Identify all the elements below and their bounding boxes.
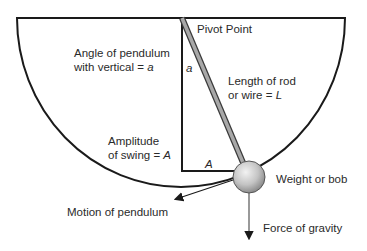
gravity-label: Force of gravity [263, 221, 342, 235]
angle-marker: a [186, 61, 192, 75]
bob [233, 161, 265, 193]
length-label: Length of rod or wire = L [228, 74, 296, 102]
amplitude-label: Amplitude of swing = A [108, 134, 171, 162]
angle-label: Angle of pendulum with vertical = a [74, 46, 170, 74]
pendulum-diagram [0, 0, 367, 251]
motion-arrow [176, 180, 233, 199]
bob-label: Weight or bob [276, 172, 347, 186]
amplitude-marker: A [205, 157, 213, 171]
pivot-label: Pivot Point [197, 22, 252, 36]
motion-label: Motion of pendulum [67, 205, 168, 219]
